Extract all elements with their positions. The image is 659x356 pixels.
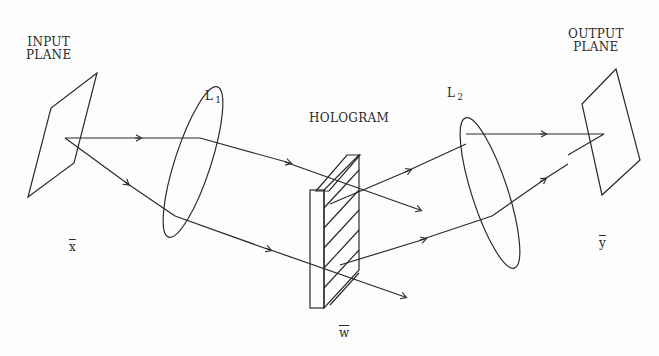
lens-l2-subscript: 2 [457,92,463,102]
lens-l1-shape [151,81,234,242]
input-plane-shape [28,73,97,197]
vector-x-label: x [69,240,76,254]
input-plane-label-line2: PLANE [26,49,71,62]
rays [65,134,604,297]
output-plane-label-line2: PLANE [568,41,624,54]
lens-l2-label: L2 [447,87,463,104]
lens-l2-shape [448,112,531,273]
hologram-label: HOLOGRAM [309,112,389,125]
output-plane-label: OUTPUT PLANE [568,28,624,54]
vector-y-label: y [599,236,606,250]
lens-l1-subscript: 1 [215,95,221,105]
output-plane-shape [582,69,640,195]
vector-w-label: w [339,326,349,340]
input-plane-label: INPUT PLANE [26,36,71,62]
diagram-canvas: INPUT PLANE OUTPUT PLANE L1 L2 HOLOGRAM … [0,0,659,356]
hologram-slab [310,155,360,308]
lens-l1-label: L1 [205,90,221,107]
lens-l1-letter: L [205,89,213,103]
optical-layout [0,0,659,356]
lens-l2-letter: L [447,86,455,100]
